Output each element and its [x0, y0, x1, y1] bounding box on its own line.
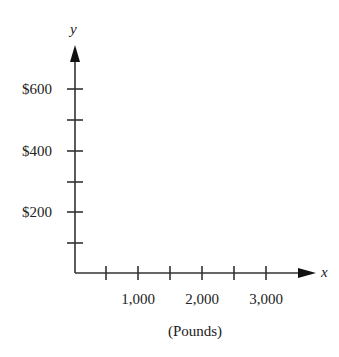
- y-tick-label-400: $400: [22, 144, 52, 159]
- x-axis-title: (Pounds): [168, 324, 222, 339]
- y-axis-name: y: [70, 22, 77, 37]
- x-axis-arrow-icon: [298, 268, 316, 278]
- x-axis-name: x: [321, 265, 328, 280]
- x-tick-label-2000: 2,000: [185, 292, 219, 307]
- x-tick-label-1000: 1,000: [121, 292, 155, 307]
- y-axis-arrow-icon: [70, 45, 80, 62]
- x-tick-label-3000: 3,000: [249, 292, 283, 307]
- y-tick-label-200: $200: [22, 205, 52, 220]
- y-tick-label-600: $600: [22, 82, 52, 97]
- axes: [0, 0, 339, 357]
